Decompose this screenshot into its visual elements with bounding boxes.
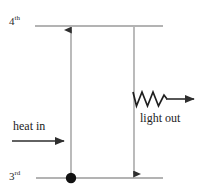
energy-level-upper-suffix: th [15, 14, 20, 22]
energy-level-diagram: 4th 3rd heat in light out [0, 0, 213, 194]
energy-level-lower-suffix: rd [15, 169, 21, 177]
heat-in-label: heat in [13, 120, 45, 132]
photon-zigzag-icon [133, 92, 167, 106]
energy-level-label-lower: 3rd [9, 171, 20, 182]
energy-level-label-upper: 4th [9, 16, 20, 27]
diagram-canvas [0, 0, 213, 194]
light-out-label: light out [140, 112, 180, 124]
population-dot [66, 173, 76, 183]
